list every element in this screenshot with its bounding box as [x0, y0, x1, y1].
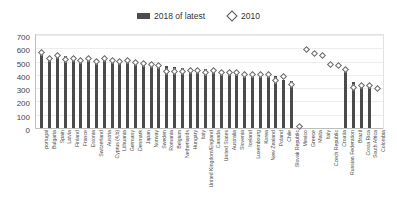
x-axis-tick-slot: Latvia — [61, 130, 69, 212]
x-axis-tick-slot: Finland — [68, 130, 76, 212]
chart-column — [194, 35, 202, 128]
chart-column — [186, 35, 194, 128]
x-axis-tick-slot: Lithuania — [115, 130, 123, 212]
chart-column — [139, 35, 147, 128]
marker-2010 — [202, 69, 209, 76]
chart-column — [358, 35, 366, 128]
x-axis-tick-slot: Austria — [100, 130, 108, 212]
x-axis-tick-slot: Estonia — [84, 130, 92, 212]
chart-column — [147, 35, 155, 128]
x-axis-tick-slot: Korea — [257, 130, 265, 212]
x-axis-tick-slot: Czech Republic — [327, 130, 335, 212]
gridline — [36, 128, 383, 129]
chart-column — [69, 35, 77, 128]
x-axis-tick-slot: Costa Rica — [359, 130, 367, 212]
chart-column — [326, 35, 334, 128]
y-axis-tick: 200 — [17, 100, 30, 108]
x-axis-tick-label: Colombia — [381, 130, 386, 152]
bar-2018 — [267, 75, 270, 128]
marker-2010 — [85, 55, 92, 62]
x-axis-tick-slot: Denmark — [131, 130, 139, 212]
x-axis-tick-slot: Belgium — [170, 130, 178, 212]
chart-column — [93, 35, 101, 128]
chart-column — [272, 35, 280, 128]
y-axis-tick: 600 — [17, 47, 30, 55]
chart-column — [77, 35, 85, 128]
bar-2018 — [56, 56, 59, 128]
chart-column — [264, 35, 272, 128]
marker-2010 — [319, 52, 326, 59]
x-axis-tick-slot: Cyprus (4,b) — [108, 130, 116, 212]
bar-2018 — [228, 71, 231, 128]
x-axis-tick-slot: United States — [217, 130, 225, 212]
x-axis-tick-slot: Italy — [319, 130, 327, 212]
bar-2018 — [259, 74, 262, 128]
marker-2010 — [335, 62, 342, 69]
bar-2018 — [142, 63, 145, 128]
chart-column — [132, 35, 140, 128]
bar-2018 — [40, 54, 43, 128]
y-axis-tick: 100 — [17, 114, 30, 122]
x-axis-tick-slot: Luxembourg — [249, 130, 257, 212]
marker-2010 — [374, 85, 381, 92]
chart-column — [311, 35, 319, 128]
bar-2018 — [212, 70, 215, 128]
bar-2018 — [181, 68, 184, 128]
chart-column — [46, 35, 54, 128]
chart-column — [303, 35, 311, 128]
x-axis-tick-slot: United Kingdom/England — [202, 130, 210, 212]
bar-2018 — [72, 58, 75, 128]
bar-2018 — [103, 58, 106, 128]
x-axis-tick-slot: Canada — [210, 130, 218, 212]
marker-2010 — [311, 50, 318, 57]
bar-2018 — [368, 87, 371, 128]
chart-column — [249, 35, 257, 128]
x-axis-tick-slot: Japan — [139, 130, 147, 212]
marker-2010 — [38, 49, 45, 56]
bar-2018 — [251, 73, 254, 128]
x-axis-tick-slot: Netherlands — [178, 130, 186, 212]
bar-2018 — [196, 68, 199, 128]
bar-2018 — [79, 58, 82, 128]
chart-column — [210, 35, 218, 128]
chart-column — [124, 35, 132, 128]
chart-column — [241, 35, 249, 128]
x-axis-tick-slot: France — [76, 130, 84, 212]
x-axis-tick-slot: Iceland — [241, 130, 249, 212]
chart-column — [233, 35, 241, 128]
chart-column — [178, 35, 186, 128]
bar-2018 — [360, 86, 363, 129]
x-axis-tick-slot: Sweden — [155, 130, 163, 212]
x-axis-tick-slot: Slovenia — [233, 130, 241, 212]
y-axis-tick: 400 — [17, 74, 30, 82]
x-axis-tick-slot: Slovak Republic — [288, 130, 296, 212]
x-axis-tick-slot: Spain — [53, 130, 61, 212]
bar-2018 — [87, 58, 90, 128]
chart-column — [85, 35, 93, 128]
bar-2018 — [95, 59, 98, 128]
marker-2010 — [327, 61, 334, 68]
legend-label-2018: 2018 of latest — [154, 12, 205, 21]
chart-column — [100, 35, 108, 128]
chart-column — [334, 35, 342, 128]
x-axis-tick-slot: portugal — [37, 130, 45, 212]
chart-legend: 2018 of latest 2010 — [0, 12, 397, 21]
x-axis-tick-slot: Poland — [272, 130, 280, 212]
marker-2010 — [303, 46, 310, 53]
x-axis-tick-slot: Germany — [123, 130, 131, 212]
bar-2018 — [344, 71, 347, 128]
y-axis-tick: 500 — [17, 61, 30, 69]
marker-2010 — [77, 57, 84, 64]
x-axis-labels: portugalBulgariaSpainLatviaFinlandFrance… — [35, 130, 384, 212]
x-axis-tick-slot: Greece — [304, 130, 312, 212]
chart-column — [155, 35, 163, 128]
bar-2018 — [173, 67, 176, 128]
chart-column — [61, 35, 69, 128]
x-axis-tick-slot: Australia — [225, 130, 233, 212]
bar-2018 — [157, 66, 160, 128]
chart-column — [202, 35, 210, 128]
bar-2018 — [235, 72, 238, 128]
chart-column — [342, 35, 350, 128]
chart-column — [365, 35, 373, 128]
x-axis-tick-slot: Colombia — [374, 130, 382, 212]
